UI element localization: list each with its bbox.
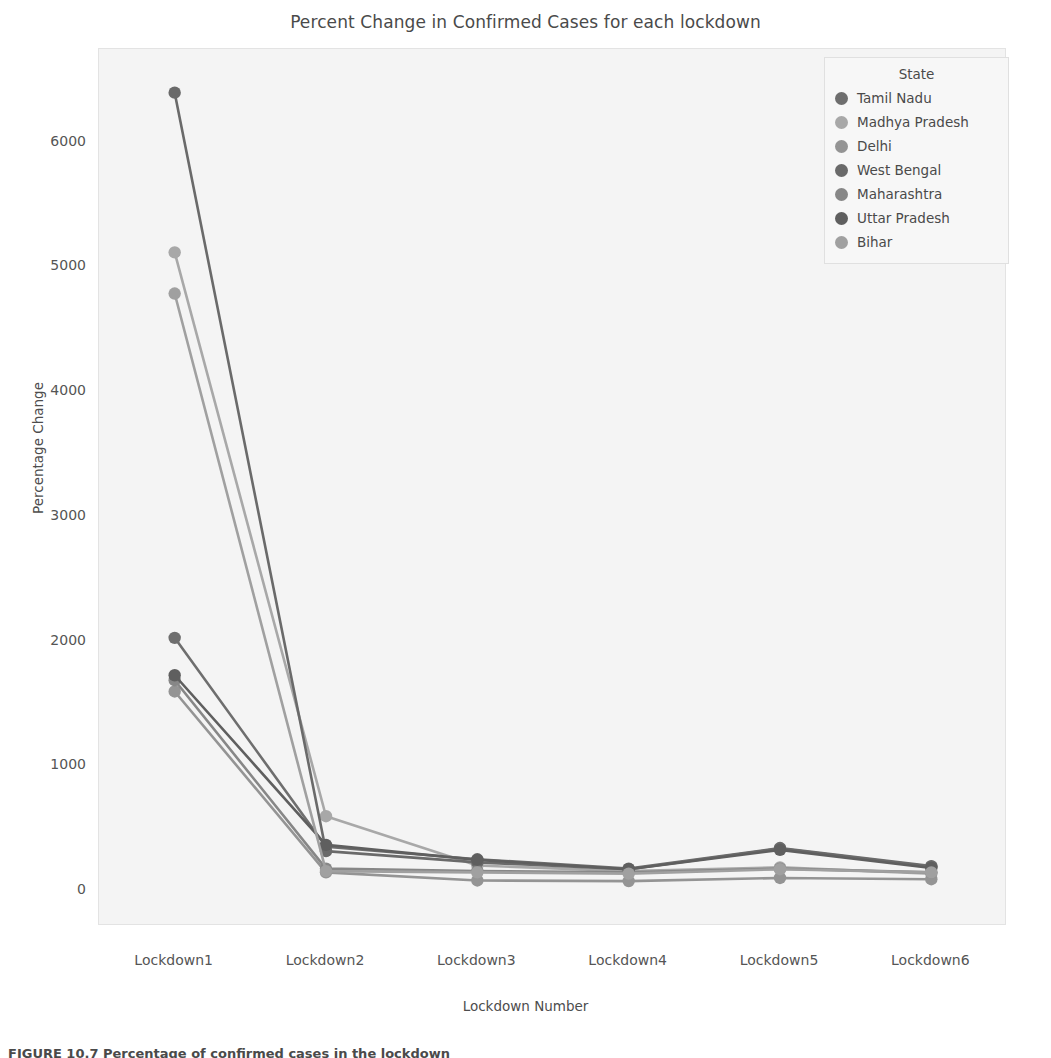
legend-item[interactable]: Maharashtra [835,182,998,206]
x-tick-label: Lockdown3 [396,952,556,968]
legend-title: State [835,66,998,82]
legend-item-label: Uttar Pradesh [857,210,950,226]
x-tick-label: Lockdown5 [699,952,859,968]
legend-item[interactable]: Madhya Pradesh [835,110,998,134]
legend-marker-icon [835,212,848,225]
legend-item[interactable]: Delhi [835,134,998,158]
legend-item-label: Maharashtra [857,186,942,202]
legend-item-label: Delhi [857,138,892,154]
x-tick-label: Lockdown6 [850,952,1010,968]
figure-caption: FIGURE 10.7 Percentage of confirmed case… [8,1046,1043,1058]
legend-items: Tamil NaduMadhya PradeshDelhiWest Bengal… [835,86,998,254]
legend-marker-icon [835,116,848,129]
x-tick-label: Lockdown4 [548,952,708,968]
figure-container: Percent Change in Confirmed Cases for ea… [0,0,1051,1058]
x-tick-label: Lockdown2 [245,952,405,968]
legend-item-label: Bihar [857,234,892,250]
legend-marker-icon [835,140,848,153]
legend: State Tamil NaduMadhya PradeshDelhiWest … [824,57,1009,264]
legend-item-label: Madhya Pradesh [857,114,969,130]
legend-item[interactable]: Uttar Pradesh [835,206,998,230]
legend-marker-icon [835,92,848,105]
legend-marker-icon [835,188,848,201]
legend-item-label: Tamil Nadu [857,90,932,106]
legend-item[interactable]: Bihar [835,230,998,254]
x-axis-label: Lockdown Number [0,998,1051,1014]
legend-item[interactable]: West Bengal [835,158,998,182]
legend-item-label: West Bengal [857,162,941,178]
legend-marker-icon [835,236,848,249]
x-tick-label: Lockdown1 [94,952,254,968]
legend-item[interactable]: Tamil Nadu [835,86,998,110]
legend-marker-icon [835,164,848,177]
